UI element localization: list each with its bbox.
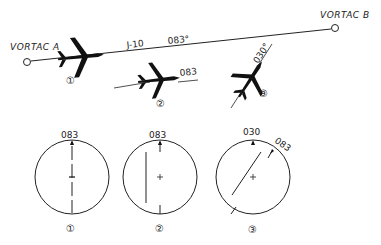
aircraft-2-heading-underline bbox=[178, 80, 198, 82]
indicator-1-top-label: 083 bbox=[61, 130, 78, 140]
indicator-3-needle bbox=[232, 152, 261, 195]
navigation-diagram: VORTAC A VORTAC B J-10 083° ① 083 ② 030°… bbox=[0, 0, 381, 245]
indicator-3-course-label: 083 bbox=[273, 135, 293, 153]
aircraft-2-icon bbox=[136, 60, 182, 100]
vortac-a-label: VORTAC A bbox=[10, 42, 60, 52]
indicator-2-marker: ② bbox=[155, 223, 164, 234]
indicator-3-index-arrow bbox=[251, 140, 255, 145]
indicator-3: 030 083 ③ bbox=[216, 127, 293, 235]
indicator-2: 083 ② bbox=[123, 130, 197, 234]
indicator-2-top-label: 083 bbox=[149, 130, 166, 140]
aircraft-2-heading: 083 bbox=[179, 66, 197, 78]
aircraft-3-heading: 030° bbox=[251, 41, 271, 65]
indicator-1-marker: ① bbox=[66, 223, 75, 234]
vortac-b-label: VORTAC B bbox=[320, 10, 370, 20]
indicator-1-index-arrow bbox=[70, 140, 74, 145]
indicator-1: 083 ① bbox=[35, 130, 109, 234]
aircraft-1-icon bbox=[56, 35, 106, 80]
aircraft-1-marker: ① bbox=[66, 75, 75, 86]
vortac-a-icon bbox=[24, 59, 31, 66]
vortac-b-icon bbox=[332, 25, 339, 32]
indicator-3-top-label: 030 bbox=[243, 127, 260, 137]
indicator-2-index-arrow bbox=[158, 140, 162, 145]
indicator-3-marker: ③ bbox=[248, 224, 257, 235]
aircraft-3-marker: ③ bbox=[259, 88, 268, 99]
airway-name: J-10 bbox=[125, 38, 144, 50]
aircraft-2-marker: ② bbox=[156, 98, 165, 109]
